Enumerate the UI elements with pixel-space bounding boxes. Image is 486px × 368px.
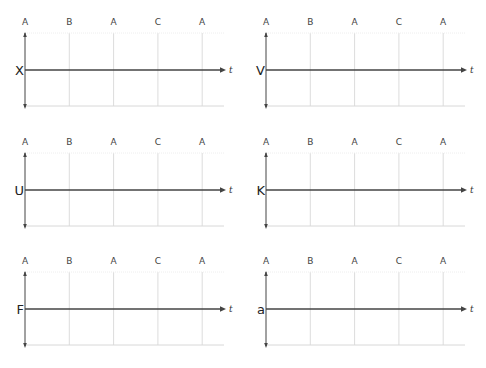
phase-label: A xyxy=(263,257,269,266)
phase-label: B xyxy=(66,257,72,266)
phase-label: A xyxy=(263,138,269,147)
phase-label: A xyxy=(352,18,358,27)
phase-label: A xyxy=(111,18,117,27)
right-arrow-icon xyxy=(461,187,467,193)
graph-panel-f: F ABACAt xyxy=(0,239,243,361)
right-arrow-icon xyxy=(461,67,467,73)
up-arrow-icon xyxy=(23,152,27,157)
phase-label: B xyxy=(66,18,72,27)
phase-label: A xyxy=(352,138,358,147)
phase-label: B xyxy=(307,138,313,147)
phase-label: A xyxy=(22,18,28,27)
phase-label: A xyxy=(263,18,269,27)
phase-label: C xyxy=(396,257,402,266)
up-arrow-icon xyxy=(264,32,268,37)
up-arrow-icon xyxy=(264,152,268,157)
phase-label: B xyxy=(307,257,313,266)
phase-label: C xyxy=(155,138,161,147)
time-axis-label: t xyxy=(229,66,233,75)
phase-label: A xyxy=(111,138,117,147)
up-arrow-icon xyxy=(264,271,268,276)
graph-canvas xyxy=(241,239,484,361)
y-axis-label: a xyxy=(257,303,265,316)
right-arrow-icon xyxy=(220,306,226,312)
time-axis-label: t xyxy=(229,186,233,195)
phase-label: A xyxy=(440,257,446,266)
phase-label: B xyxy=(307,18,313,27)
phase-label: C xyxy=(155,18,161,27)
right-arrow-icon xyxy=(461,306,467,312)
right-arrow-icon xyxy=(220,67,226,73)
time-axis-label: t xyxy=(470,186,474,195)
y-axis-label: X xyxy=(15,64,24,77)
phase-label: A xyxy=(440,138,446,147)
graph-panel-x: X ABACAt xyxy=(0,0,243,122)
graph-canvas xyxy=(0,120,243,242)
time-axis-label: t xyxy=(229,305,233,314)
graph-panel-u: U ABACAt xyxy=(0,120,243,242)
time-axis-label: t xyxy=(470,66,474,75)
up-arrow-icon xyxy=(23,32,27,37)
y-axis-label: U xyxy=(14,184,24,197)
phase-label: A xyxy=(440,18,446,27)
graph-canvas xyxy=(0,239,243,361)
graph-panel-v: V ABACAt xyxy=(241,0,484,122)
phase-label: B xyxy=(66,138,72,147)
y-axis-label: F xyxy=(17,303,24,316)
phase-label: A xyxy=(199,138,205,147)
graph-panel-a: a ABACAt xyxy=(241,239,484,361)
graph-canvas xyxy=(241,0,484,122)
phase-label: A xyxy=(199,18,205,27)
right-arrow-icon xyxy=(220,187,226,193)
graph-canvas xyxy=(0,0,243,122)
y-axis-label: K xyxy=(256,184,265,197)
phase-label: C xyxy=(396,138,402,147)
up-arrow-icon xyxy=(23,271,27,276)
y-axis-label: V xyxy=(256,64,265,77)
phase-label: A xyxy=(111,257,117,266)
phase-label: A xyxy=(199,257,205,266)
graph-canvas xyxy=(241,120,484,242)
phase-label: A xyxy=(22,257,28,266)
graph-panel-k: K ABACAt xyxy=(241,120,484,242)
phase-label: C xyxy=(396,18,402,27)
phase-label: C xyxy=(155,257,161,266)
phase-label: A xyxy=(22,138,28,147)
time-axis-label: t xyxy=(470,305,474,314)
phase-label: A xyxy=(352,257,358,266)
